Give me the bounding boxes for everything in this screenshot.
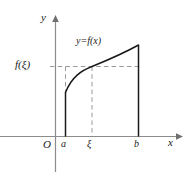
function-curve [66,45,139,93]
curve-equation-label: y=f(x) [76,36,101,46]
figure-container: y x O a ξ b f(ξ) y=f(x) [0,0,185,176]
x-tick-label-b: b [134,139,139,149]
dashed-guides-group [50,67,141,137]
ordinates-group [66,45,139,137]
y-axis-label: y [41,12,46,23]
y-axis-arrow-icon [52,15,59,22]
figure-canvas [0,0,185,176]
x-axis-label: x [168,137,173,148]
x-tick-label-xi: ξ [87,139,91,149]
x-tick-label-a: a [61,139,66,149]
origin-label: O [43,139,51,150]
f-of-xi-label: f(ξ) [15,59,30,70]
x-axis-arrow-icon [176,133,183,140]
